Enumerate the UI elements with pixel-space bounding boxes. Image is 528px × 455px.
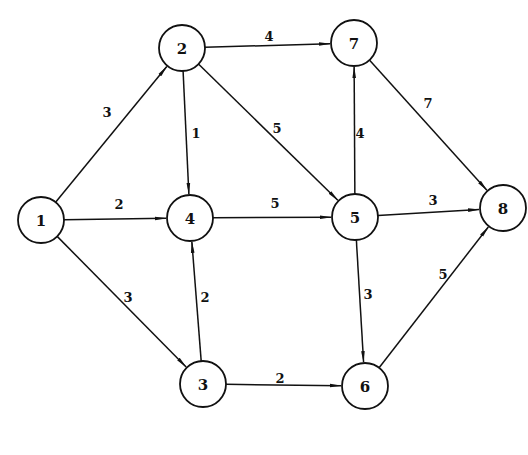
node-2: 2: [159, 25, 205, 71]
node-label: 6: [360, 378, 370, 396]
edge-weight-6-8: 5: [438, 267, 447, 282]
network-graph: 32341552473325 12345678: [0, 0, 528, 455]
node-label: 8: [498, 200, 508, 218]
arrow-icon: [183, 71, 189, 194]
edge-weight-5-7: 4: [355, 126, 364, 141]
edge-7-to-8: [369, 60, 487, 190]
arrow-icon: [379, 227, 488, 368]
edge-weight-1-4: 2: [114, 197, 123, 212]
arrow-icon: [198, 64, 337, 200]
arrow-icon: [57, 236, 186, 367]
node-7: 7: [331, 20, 377, 66]
edge-4-to-5: [213, 217, 331, 218]
edge-6-to-8: [379, 227, 488, 368]
node-label: 4: [185, 210, 195, 228]
node-label: 7: [349, 35, 359, 53]
node-6: 6: [342, 363, 388, 409]
node-4: 4: [167, 195, 213, 241]
edge-2-to-7: [205, 44, 330, 48]
node-5: 5: [332, 194, 378, 240]
edge-2-to-5: [198, 64, 337, 200]
node-3: 3: [180, 361, 226, 407]
arrow-icon: [378, 209, 479, 215]
nodes-layer: 12345678: [18, 20, 526, 409]
arrow-icon: [56, 67, 167, 203]
edge-1-to-3: [57, 236, 186, 367]
arrow-icon: [369, 60, 487, 190]
node-label: 1: [36, 212, 46, 230]
edge-weight-2-4: 1: [191, 126, 200, 141]
node-label: 2: [177, 40, 187, 58]
edge-weight-5-8: 3: [428, 193, 437, 208]
edge-weight-4-5: 5: [270, 196, 279, 211]
arrow-icon: [205, 44, 330, 48]
edge-weight-1-3: 3: [123, 290, 132, 305]
edge-weight-2-5: 5: [272, 121, 281, 136]
edge-weight-7-8: 7: [423, 96, 432, 111]
edge-weight-3-4: 2: [200, 290, 209, 305]
node-label: 3: [198, 376, 208, 394]
edge-weight-5-6: 3: [363, 287, 372, 302]
arrow-icon: [64, 218, 166, 219]
edge-5-to-8: [378, 209, 479, 215]
edge-1-to-2: [56, 67, 167, 203]
node-1: 1: [18, 197, 64, 243]
edge-weight-1-2: 3: [102, 105, 111, 120]
edge-weight-3-6: 2: [275, 371, 284, 386]
node-label: 5: [350, 209, 360, 227]
edge-1-to-4: [64, 218, 166, 219]
node-8: 8: [480, 185, 526, 231]
edge-2-to-4: [183, 71, 189, 194]
edge-weight-2-7: 4: [264, 29, 273, 44]
arrow-icon: [213, 217, 331, 218]
